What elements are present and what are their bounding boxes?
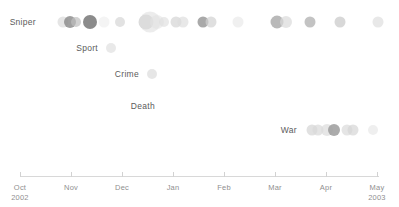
data-point[interactable] <box>328 124 340 136</box>
data-point[interactable] <box>71 17 81 27</box>
axis-tick-label: Jan <box>167 183 180 193</box>
data-point[interactable] <box>83 15 97 29</box>
data-point[interactable] <box>348 125 359 136</box>
tick-month: May <box>370 183 385 192</box>
data-point[interactable] <box>335 17 346 28</box>
axis-tick <box>326 172 327 177</box>
data-point[interactable] <box>373 17 384 28</box>
axis-tick <box>122 172 123 177</box>
timeline-scatter-chart: SniperSportCrimeDeathWar Oct2002NovDecJa… <box>0 0 399 207</box>
axis-tick-label: Oct2002 <box>11 183 29 202</box>
tick-month: Nov <box>64 183 78 192</box>
data-point[interactable] <box>206 17 217 28</box>
tick-month: Dec <box>115 183 129 192</box>
data-point[interactable] <box>147 69 157 79</box>
axis-tick-label: May2003 <box>368 183 386 202</box>
axis-tick <box>173 172 174 177</box>
data-point[interactable] <box>106 43 116 53</box>
row-label-sniper: Sniper <box>0 18 36 27</box>
tick-month: Apr <box>320 183 332 192</box>
data-point[interactable] <box>178 17 189 28</box>
row-label-war: War <box>0 126 297 135</box>
axis-tick <box>20 172 21 177</box>
axis-tick-label: Mar <box>268 183 282 193</box>
axis-tick <box>275 172 276 177</box>
axis-tick <box>377 172 378 177</box>
data-point[interactable] <box>159 17 169 27</box>
tick-year: 2003 <box>368 193 386 203</box>
data-point[interactable] <box>233 17 244 28</box>
data-point[interactable] <box>99 17 110 28</box>
axis-tick-label: Nov <box>64 183 78 193</box>
tick-month: Jan <box>167 183 180 192</box>
axis-tick-label: Apr <box>320 183 332 193</box>
axis-tick-label: Dec <box>115 183 129 193</box>
row-label-sport: Sport <box>0 44 98 53</box>
tick-month: Oct <box>14 183 26 192</box>
data-point[interactable] <box>115 17 125 27</box>
axis-tick <box>71 172 72 177</box>
row-label-death: Death <box>0 102 155 111</box>
tick-month: Feb <box>217 183 231 192</box>
data-point[interactable] <box>280 16 292 28</box>
data-point[interactable] <box>305 17 316 28</box>
data-point[interactable] <box>368 125 378 135</box>
tick-month: Mar <box>268 183 282 192</box>
tick-year: 2002 <box>11 193 29 203</box>
axis-tick <box>224 172 225 177</box>
axis-tick-label: Feb <box>217 183 231 193</box>
row-label-crime: Crime <box>0 70 139 79</box>
